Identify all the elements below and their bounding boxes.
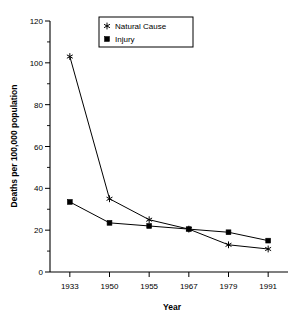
series-natural-cause (67, 53, 271, 252)
data-point-asterisk (67, 53, 73, 60)
y-tick-label: 40 (34, 184, 43, 193)
x-axis: 193319501955196719791991 (50, 272, 288, 291)
x-tick-label: 1950 (101, 282, 119, 291)
line-chart: 020406080100120 193319501955196719791991… (0, 0, 298, 333)
x-tick-label: 1967 (180, 282, 198, 291)
chart-container: 020406080100120 193319501955196719791991… (0, 0, 298, 333)
data-point-square (186, 227, 191, 232)
data-point-square (226, 230, 231, 235)
series-line (70, 202, 268, 241)
y-tick-label: 80 (34, 101, 43, 110)
y-axis: 020406080100120 (30, 17, 50, 277)
x-tick-label: 1955 (140, 282, 158, 291)
x-axis-title: Year (163, 302, 182, 312)
series-injury (67, 200, 270, 243)
x-tick-label: 1979 (220, 282, 238, 291)
x-tick-label: 1991 (259, 282, 277, 291)
data-point-square (105, 37, 110, 42)
legend-label: Natural Cause (115, 22, 167, 31)
data-point-square (266, 238, 271, 243)
y-tick-label: 60 (34, 143, 43, 152)
chart-legend: Natural CauseInjury (99, 17, 193, 47)
data-point-square (147, 224, 152, 229)
data-point-asterisk (107, 195, 113, 202)
y-tick-label: 0 (39, 268, 44, 277)
series-line (70, 57, 268, 249)
legend-label: Injury (115, 35, 135, 44)
data-point-square (67, 200, 72, 205)
y-axis-title: Deaths per 100,000 population (9, 85, 19, 208)
series-layer (67, 53, 271, 252)
data-point-square (107, 220, 112, 225)
x-tick-label: 1933 (61, 282, 79, 291)
y-tick-label: 100 (30, 59, 44, 68)
y-tick-label: 120 (30, 17, 44, 26)
y-tick-label: 20 (34, 226, 43, 235)
